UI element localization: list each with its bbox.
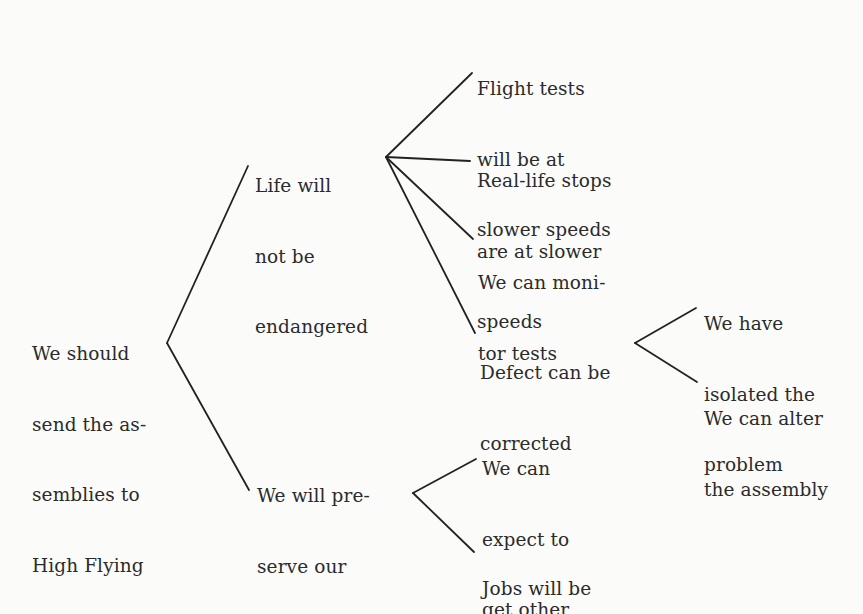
node-line: not be [255, 245, 368, 269]
node-line: We can moni- [478, 271, 605, 295]
edge-life-reallife [386, 157, 470, 161]
node-jobs-protected: Jobs will be protected [482, 530, 591, 614]
node-line: endangered [255, 315, 368, 339]
node-line: High Flying [32, 554, 146, 578]
node-life-not-endangered: Life will not be endangered [255, 127, 368, 362]
node-line: We can alter [704, 407, 828, 431]
edge-life-flight [386, 73, 472, 157]
node-line: the assembly [704, 478, 828, 502]
node-line: We can [482, 457, 571, 481]
node-line: Life will [255, 174, 368, 198]
edge-life-monitor [386, 157, 473, 239]
node-line: Real-life stops [477, 169, 612, 193]
node-line: We should [32, 342, 146, 366]
node-alter-assembly: We can alter the assembly [704, 360, 828, 525]
node-preserve-image: We will pre- serve our image and our eco… [257, 437, 385, 614]
node-line: semblies to [32, 483, 146, 507]
node-line: Jobs will be [482, 577, 591, 601]
edge-root-preserve [167, 343, 249, 490]
node-root-claim: We should send the as- semblies to High … [32, 295, 146, 601]
edge-preserve-contracts [413, 459, 476, 493]
node-line: Flight tests [477, 77, 611, 101]
edge-defect-alter [635, 343, 697, 382]
node-line: send the as- [32, 413, 146, 437]
edge-root-life [167, 166, 248, 343]
edge-defect-isolated [635, 308, 696, 343]
node-line: serve our [257, 555, 385, 579]
edge-preserve-jobs [413, 493, 474, 552]
node-line: We will pre- [257, 484, 385, 508]
node-line: Defect can be [480, 361, 611, 385]
edge-life-defect [386, 157, 475, 333]
node-line: We have [704, 312, 815, 336]
